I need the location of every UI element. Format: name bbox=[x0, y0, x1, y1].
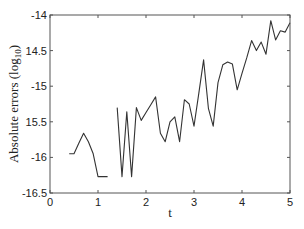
x-axis-label: t bbox=[168, 205, 172, 220]
y-tick-label: 14.5 bbox=[26, 45, 47, 57]
x-tick-label: 0 bbox=[47, 196, 53, 208]
x-tick-label: 3 bbox=[191, 196, 197, 208]
y-tick-label: -14 bbox=[31, 9, 47, 21]
x-tick-label: 4 bbox=[239, 196, 245, 208]
y-tick-label: 15.5 bbox=[26, 116, 47, 128]
axes-frame bbox=[50, 15, 290, 193]
data-line-segment-1 bbox=[69, 133, 107, 176]
y-tick-label: -16.5 bbox=[22, 187, 47, 199]
data-line-segment-2 bbox=[117, 21, 290, 177]
y-axis-label-main: Absolute errors (log bbox=[6, 58, 21, 163]
y-axis-label: Absolute errors (log10) bbox=[6, 45, 23, 163]
x-axis-ticks: 012345 bbox=[47, 15, 293, 208]
y-tick-label: -15 bbox=[31, 80, 47, 92]
y-tick-label: -16 bbox=[31, 151, 47, 163]
x-tick-label: 5 bbox=[287, 196, 293, 208]
y-axis-ticks: -1414.5-1515.5-16-16.5 bbox=[22, 9, 290, 199]
y-axis-label-close: ) bbox=[6, 45, 21, 49]
x-tick-label: 2 bbox=[143, 196, 149, 208]
x-tick-label: 1 bbox=[95, 196, 101, 208]
plot-lines bbox=[69, 21, 290, 177]
line-chart: 012345 -1414.5-1515.5-16-16.5 t Absolute… bbox=[0, 0, 304, 229]
